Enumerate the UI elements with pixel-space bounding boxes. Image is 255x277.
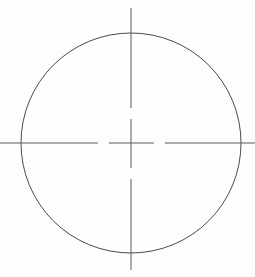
line-drawing-svg	[0, 0, 255, 277]
drawing-canvas	[0, 0, 255, 277]
